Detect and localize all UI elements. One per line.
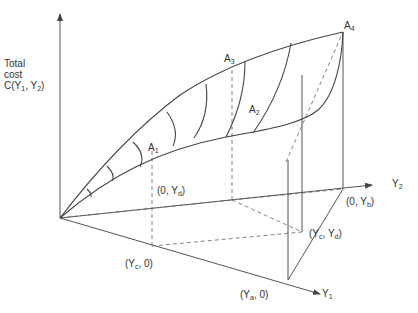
cost-axis-label: Total cost C(Y1, Y2) [4, 58, 44, 94]
iso-arc [133, 142, 142, 167]
point-a2: A2 [249, 104, 260, 118]
dashed-line [232, 200, 302, 232]
label-0-yd: (0, Yd) [157, 185, 185, 199]
y2-axis-label: Y2 [392, 178, 403, 192]
label-yc-0: (Yc, 0) [125, 258, 153, 272]
diagram-drawing [0, 0, 418, 313]
iso-arc [194, 84, 207, 138]
dashed-line [152, 232, 302, 246]
label-yc-yd: (Yc, Yd) [309, 228, 342, 242]
iso-arc [167, 112, 175, 146]
point-a1: A1 [148, 142, 159, 156]
y1-axis [60, 218, 320, 294]
label-0-yb: (0, Yb) [346, 196, 374, 210]
dashed-line [286, 32, 343, 162]
cost-surface-diagram: Total cost C(Y1, Y2) Y2 Y1 A1 A2 A3 A4 (… [0, 0, 418, 313]
point-a3: A3 [224, 53, 235, 67]
iso-arc [226, 62, 245, 137]
point-a4: A4 [344, 20, 355, 34]
iso-arc [107, 166, 113, 181]
label-ya-0: (Ya, 0) [240, 289, 268, 303]
y1-axis-label: Y1 [322, 288, 333, 302]
